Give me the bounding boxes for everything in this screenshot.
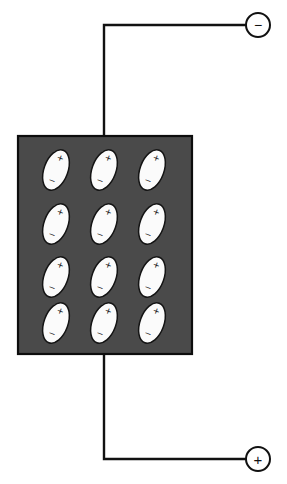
positive-terminal: +	[246, 447, 270, 471]
positive-terminal-sign: +	[254, 451, 263, 468]
dielectric-polarization-figure: + − + − + − + − + −	[0, 0, 287, 484]
negative-terminal: −	[246, 13, 270, 37]
figure-canvas: + − + − + − + − + −	[0, 0, 287, 484]
top-wire	[104, 25, 246, 136]
bottom-wire	[104, 354, 246, 459]
negative-terminal-sign: −	[254, 17, 262, 33]
